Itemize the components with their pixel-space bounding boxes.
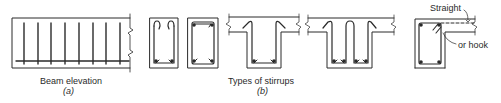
l-beam-closed-stirrup-drawing bbox=[415, 10, 477, 68]
t-beam-single-u-drawing bbox=[226, 14, 301, 68]
figure-drawing bbox=[0, 0, 501, 103]
stirrup-figure: Beam elevation (a) Types of stirrups (b)… bbox=[0, 0, 501, 103]
panel-b-sub-label: (b) bbox=[257, 86, 268, 96]
panel-a-caption: Beam elevation bbox=[40, 76, 102, 86]
straight-annotation: Straight bbox=[430, 3, 461, 13]
t-beam-double-u-drawing bbox=[305, 15, 396, 68]
longitudinal-bars bbox=[154, 23, 441, 64]
or-hook-annotation: or hook bbox=[458, 40, 488, 50]
open-u-stirrup-drawing bbox=[150, 18, 178, 68]
panel-a-sub-label: (a) bbox=[63, 86, 74, 96]
beam-elevation-drawing bbox=[12, 14, 133, 72]
panel-b-caption: Types of stirrups bbox=[228, 76, 294, 86]
